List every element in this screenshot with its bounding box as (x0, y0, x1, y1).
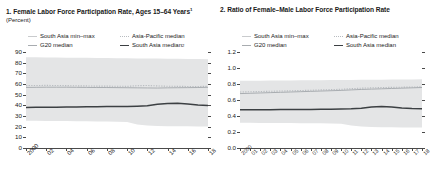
y-axis-label: 0.2 (227, 129, 236, 135)
legend-label: G20 median (254, 41, 287, 50)
panel-2-x-axis-wrap: 2000010203040506070809101112131415161718 (220, 148, 426, 184)
x-axis-label: 09 (331, 148, 339, 156)
x-axis-label: 10 (341, 148, 349, 156)
y-axis-tick-right (208, 63, 211, 64)
y-axis-tick-right (208, 84, 211, 85)
legend-label: South Asia min–max (254, 32, 309, 41)
y-axis-tick-right (422, 116, 425, 117)
chart-svg (240, 52, 422, 148)
panel-1-plot-area (26, 52, 208, 148)
legend-label: Asia-Pacific median (346, 32, 399, 41)
legend-label: G20 median (40, 41, 73, 50)
x-axis-label: 15 (392, 148, 400, 156)
x-axis-label: 06 (301, 148, 309, 156)
x-axis-label: 14 (382, 148, 390, 156)
y-axis-tick-right (208, 127, 211, 128)
x-axis-label: 04 (280, 148, 288, 156)
x-axis-label: 17 (412, 148, 420, 156)
panel-1-x-spacer (6, 148, 26, 184)
panel-1-title-block: 1. Female Labor Force Participation Rate… (6, 6, 212, 32)
y-axis-label: 50 (15, 92, 22, 98)
y-axis-label: 70 (15, 70, 22, 76)
y-axis-label: 1.2 (227, 49, 236, 55)
x-axis-label: 13 (371, 148, 379, 156)
panel-2-plot-area (240, 52, 422, 148)
panel-2-title-block: 2. Ratio of Female–Male Labor Force Part… (220, 6, 426, 32)
legend-label: South Asia min–max (40, 32, 95, 41)
y-axis-label: 10 (15, 134, 22, 140)
y-axis-label: 0.8 (227, 81, 236, 87)
legend-item-asia-pacific-median: Asia-Pacific median (334, 32, 426, 41)
chart-panel-1: 1. Female Labor Force Participation Rate… (6, 6, 216, 182)
x-axis-label: 12 (361, 148, 369, 156)
min-max-band (240, 79, 422, 127)
panel-2-x-spacer (220, 148, 240, 184)
figure-container: 1. Female Labor Force Participation Rate… (0, 0, 432, 184)
panel-1-title: 1. Female Labor Force Participation Rate… (6, 6, 212, 16)
x-axis-label: 02 (260, 148, 268, 156)
panel-2-title: 2. Ratio of Female–Male Labor Force Part… (220, 6, 426, 14)
chart-svg (26, 52, 208, 148)
min-max-band (26, 57, 208, 126)
y-axis-label: 40 (15, 102, 22, 108)
y-axis-label: 80 (15, 60, 22, 66)
chart-panel-2: 2. Ratio of Female–Male Labor Force Part… (216, 6, 426, 182)
legend-item-south-asia-min-max: South Asia min–max (242, 32, 334, 41)
legend-label: Asia-Pacific median (132, 32, 185, 41)
legend-label-footnote: 2 (182, 41, 184, 50)
y-axis-tick-right (208, 116, 211, 117)
panel-1-subtitle: (Percent) (6, 16, 212, 24)
panel-2-legend: South Asia min–max Asia-Pacific median G… (220, 32, 426, 50)
y-axis-tick-right (422, 68, 425, 69)
y-axis-tick-right (422, 52, 425, 53)
x-axis-label: 11 (351, 148, 359, 156)
y-axis-label: 20 (15, 124, 22, 130)
legend-item-south-asia-median: South Asia median (334, 41, 426, 50)
panel-1-y-axis: 0102030405060708090 (6, 52, 26, 148)
legend-item-south-asia-median: South Asia median2 (120, 41, 212, 50)
y-axis-tick-right (208, 105, 211, 106)
panel-1-right-ticks (208, 52, 212, 148)
y-axis-tick-right (208, 73, 211, 74)
panel-2-right-ticks (422, 52, 426, 148)
panel-2-plot-wrap: 0.00.20.40.60.81.01.2 (220, 52, 426, 148)
legend-item-asia-pacific-median: Asia-Pacific median (120, 32, 212, 41)
y-axis-tick-right (208, 137, 211, 138)
y-axis-label: 90 (15, 49, 22, 55)
y-axis-label: 0.4 (227, 113, 236, 119)
x-axis-label: 01 (250, 148, 258, 156)
x-axis-label: 05 (291, 148, 299, 156)
panel-2-y-axis: 0.00.20.40.60.81.01.2 (220, 52, 240, 148)
panel-1-title-text: 1. Female Labor Force Participation Rate… (6, 8, 190, 15)
y-axis-tick-right (208, 52, 211, 53)
y-axis-label: 1.0 (227, 65, 236, 71)
legend-item-south-asia-min-max: South Asia min–max (28, 32, 120, 41)
panel-2-x-axis: 2000010203040506070809101112131415161718 (240, 148, 422, 184)
panel-1-legend: South Asia min–max Asia-Pacific median G… (6, 32, 212, 50)
legend-label: South Asia median (132, 41, 182, 50)
x-axis-label: 07 (311, 148, 319, 156)
y-axis-label: 0 (19, 145, 22, 151)
y-axis-label: 60 (15, 81, 22, 87)
y-axis-tick-right (422, 100, 425, 101)
y-axis-label: 0.6 (227, 97, 236, 103)
x-axis-label: 16 (402, 148, 410, 156)
panel-1-title-footnote: 1 (190, 7, 192, 12)
panel-1-x-axis: 2000020406081012141618 (26, 148, 208, 184)
legend-item-g20-median: G20 median (242, 41, 334, 50)
legend-label: South Asia median (346, 41, 396, 50)
x-axis-label: 03 (270, 148, 278, 156)
y-axis-tick-right (422, 132, 425, 133)
panel-1-x-axis-wrap: 2000020406081012141618 (6, 148, 212, 184)
y-axis-label: 30 (15, 113, 22, 119)
y-axis-label: 0.0 (227, 145, 236, 151)
legend-item-g20-median: G20 median (28, 41, 120, 50)
panel-1-plot-wrap: 0102030405060708090 (6, 52, 212, 148)
y-axis-tick-right (422, 84, 425, 85)
y-axis-tick-right (208, 95, 211, 96)
x-axis-label: 08 (321, 148, 329, 156)
